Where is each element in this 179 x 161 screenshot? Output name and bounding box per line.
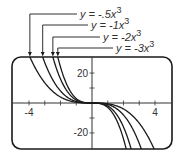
leader-line — [30, 14, 77, 56]
y-tick-label: -20 — [74, 127, 89, 138]
arrow-head-icon — [28, 52, 32, 56]
y-tick-label: 20 — [77, 68, 89, 79]
arrow-head-icon — [51, 52, 55, 56]
legend-label: y = -.5x3 — [79, 5, 121, 20]
leader-line — [53, 37, 100, 56]
legend-label: y = -1x3 — [90, 16, 129, 31]
leader-line — [58, 48, 113, 56]
cubic-function-graph: y = -.5x3y = -1x3y = -2x3y = -3x3 -4420-… — [0, 0, 179, 161]
legend-labels: y = -.5x3y = -1x3y = -2x3y = -3x3 — [79, 5, 154, 54]
x-tick-label: 4 — [152, 107, 158, 118]
legend-label: y = -3x3 — [115, 39, 154, 54]
arrow-head-icon — [56, 52, 60, 56]
legend-label: y = -2x3 — [102, 28, 141, 43]
x-tick-label: -4 — [25, 107, 34, 118]
leader-line — [43, 25, 88, 56]
arrow-head-icon — [41, 52, 45, 56]
